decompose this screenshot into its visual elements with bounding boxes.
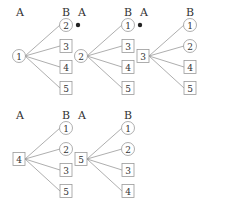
root-node-label: 3 (140, 52, 146, 62)
root-node-label: 2 (78, 52, 84, 62)
child-node-label: 5 (63, 84, 69, 94)
tree-panel-2: AB21345 (75, 6, 143, 95)
child-node-label: 4 (63, 63, 69, 73)
marker-dot-icon (138, 23, 142, 27)
child-node-label: 5 (187, 84, 193, 94)
child-node-label: 4 (125, 187, 131, 197)
child-node-label: 2 (187, 42, 193, 52)
column-label-b: B (124, 109, 132, 122)
column-label-b: B (62, 109, 70, 122)
child-node-label: 2 (63, 145, 69, 155)
branch-line (87, 56, 122, 67)
branch-line (87, 159, 122, 170)
column-label-b: B (186, 6, 194, 19)
child-node-label: 5 (125, 84, 131, 94)
root-node-label: 1 (16, 52, 22, 62)
child-node-label: 2 (63, 21, 69, 31)
root-node-label: 5 (78, 155, 84, 165)
child-node-label: 1 (125, 21, 131, 31)
tree-diagram: AB12345AB21345AB31245AB41235AB51234 (0, 0, 244, 208)
column-label-a: A (77, 6, 87, 19)
child-node-label: 1 (63, 124, 69, 134)
child-node-label: 3 (63, 42, 69, 52)
child-node-label: 5 (63, 187, 69, 197)
branch-line (87, 56, 122, 88)
branch-line (25, 159, 60, 191)
child-node-label: 4 (187, 63, 193, 73)
branch-line (149, 56, 184, 67)
column-label-b: B (62, 6, 70, 19)
branch-line (87, 159, 122, 191)
column-label-b: B (124, 6, 132, 19)
column-label-a: A (15, 109, 25, 122)
child-node-label: 4 (125, 63, 131, 73)
child-node-label: 3 (125, 166, 131, 176)
column-label-a: A (15, 6, 25, 19)
branch-line (25, 56, 60, 67)
child-node-label: 3 (63, 166, 69, 176)
tree-panel-3: AB31245 (137, 6, 197, 95)
child-node-label: 1 (125, 124, 131, 134)
marker-dot-icon (76, 23, 80, 27)
tree-panel-4: AB41235 (13, 109, 73, 198)
column-label-a: A (77, 109, 87, 122)
column-label-a: A (139, 6, 149, 19)
branch-line (149, 56, 184, 88)
child-node-label: 2 (125, 145, 131, 155)
tree-panel-1: AB12345 (13, 6, 81, 95)
root-node-label: 4 (16, 155, 22, 165)
child-node-label: 1 (187, 21, 193, 31)
branch-line (25, 159, 60, 170)
branch-line (25, 56, 60, 88)
tree-panel-5: AB51234 (75, 109, 135, 198)
child-node-label: 3 (125, 42, 131, 52)
